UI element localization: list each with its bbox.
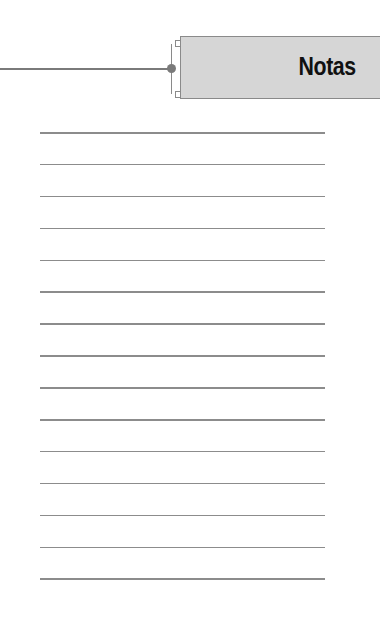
note-line: [40, 451, 325, 453]
note-line: [40, 419, 325, 421]
note-line: [40, 291, 325, 293]
note-line: [40, 164, 325, 166]
note-line: [40, 132, 325, 134]
note-line: [40, 323, 325, 325]
note-line: [40, 547, 325, 549]
note-line: [40, 260, 325, 262]
connector-dot: [167, 64, 176, 73]
note-line: [40, 387, 325, 389]
note-line: [40, 355, 325, 357]
note-line: [40, 483, 325, 485]
note-line: [40, 515, 325, 517]
note-line: [40, 228, 325, 230]
page-title: Notas: [299, 51, 356, 82]
connector-line: [0, 68, 172, 70]
notes-lines: [40, 132, 325, 610]
note-line: [40, 196, 325, 198]
notes-header: Notas: [180, 36, 380, 99]
note-line: [40, 578, 325, 580]
